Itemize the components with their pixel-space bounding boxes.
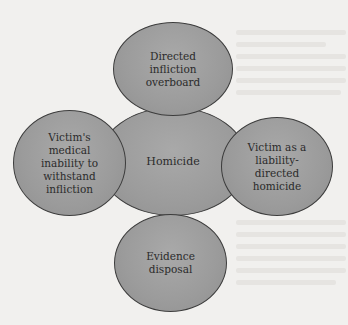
left-node-label: Victim's medical inability to withstand …	[41, 131, 98, 196]
node-victim-medical-inability: Victim's medical inability to withstand …	[13, 110, 126, 216]
node-directed-infliction-overboard: Directed infliction overboard	[113, 22, 233, 116]
bottom-node-label: Evidence disposal	[146, 250, 195, 276]
center-node-label: Homicide	[146, 155, 199, 168]
node-victim-as-liability: Victim as a liability- directed homicide	[221, 117, 333, 216]
homicide-diagram: Homicide Directed infliction overboard V…	[0, 0, 348, 325]
right-node-label: Victim as a liability- directed homicide	[248, 141, 307, 193]
node-evidence-disposal: Evidence disposal	[114, 214, 227, 312]
top-node-label: Directed infliction overboard	[146, 50, 201, 89]
